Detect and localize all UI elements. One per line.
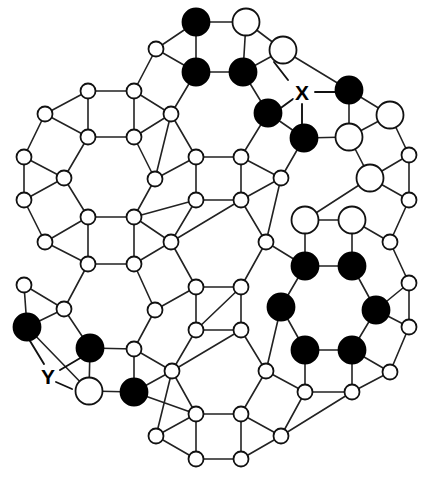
graph-node-white[interactable] (383, 365, 398, 380)
graph-node-white[interactable] (81, 257, 96, 272)
graph-node-black[interactable] (336, 77, 363, 104)
graph-node-black[interactable] (183, 59, 210, 86)
graph-node-white[interactable] (234, 323, 249, 338)
graph-node-white[interactable] (17, 150, 32, 165)
graph-node-white[interactable] (234, 150, 249, 165)
graph-node-white[interactable] (81, 130, 96, 145)
graph-node-white[interactable] (38, 235, 53, 250)
graph-node-white[interactable] (127, 210, 142, 225)
graph-node-white[interactable] (148, 303, 163, 318)
graph-node-black[interactable] (183, 9, 210, 36)
graph-node-white[interactable] (149, 42, 164, 57)
graph-node-black[interactable] (121, 379, 148, 406)
graph-node-white[interactable] (357, 165, 384, 192)
graph-node-black[interactable] (291, 125, 318, 152)
graph-node-white[interactable] (402, 148, 417, 163)
graph-node-white[interactable] (76, 378, 103, 405)
graph-node-white[interactable] (189, 280, 204, 295)
graph-node-white[interactable] (233, 9, 260, 36)
graph-node-white[interactable] (38, 107, 53, 122)
graph-node-black[interactable] (339, 337, 366, 364)
graph-node-white[interactable] (270, 37, 297, 64)
graph-node-white[interactable] (274, 171, 289, 186)
graph-node-white[interactable] (298, 385, 313, 400)
graph-node-white[interactable] (17, 193, 32, 208)
graph-node-white[interactable] (189, 407, 204, 422)
graph-node-white[interactable] (345, 385, 360, 400)
graph-node-white[interactable] (292, 207, 319, 234)
diagram-canvas: XY (0, 0, 432, 482)
graph-node-white[interactable] (127, 130, 142, 145)
graph-node-black[interactable] (14, 314, 41, 341)
graph-node-white[interactable] (402, 276, 417, 291)
graph-node-white[interactable] (234, 407, 249, 422)
graph-node-black[interactable] (230, 59, 257, 86)
graph-edge (172, 330, 241, 371)
graph-node-black[interactable] (363, 297, 390, 324)
graph-node-white[interactable] (377, 102, 404, 129)
graph-node-white[interactable] (259, 235, 274, 250)
graph-node-white[interactable] (189, 452, 204, 467)
graph-node-white[interactable] (383, 235, 398, 250)
graph-node-black[interactable] (268, 294, 295, 321)
graph-node-white[interactable] (17, 278, 32, 293)
annotation-label-x: X (295, 81, 309, 104)
graph-node-white[interactable] (234, 280, 249, 295)
label-leader-line-x (274, 62, 288, 80)
graph-node-white[interactable] (336, 124, 363, 151)
graph-node-black[interactable] (292, 337, 319, 364)
graph-svg: XY (0, 0, 432, 482)
graph-node-white[interactable] (165, 364, 180, 379)
graph-edge (155, 114, 171, 179)
graph-node-white[interactable] (149, 429, 164, 444)
graph-node-white[interactable] (164, 107, 179, 122)
graph-node-white[interactable] (57, 171, 72, 186)
graph-node-white[interactable] (259, 364, 274, 379)
graph-node-white[interactable] (148, 172, 163, 187)
annotation-label-y: Y (41, 365, 55, 388)
graph-node-white[interactable] (81, 84, 96, 99)
graph-node-white[interactable] (57, 302, 72, 317)
graph-node-white[interactable] (402, 320, 417, 335)
graph-node-black[interactable] (292, 253, 319, 280)
graph-node-black[interactable] (77, 335, 104, 362)
graph-node-black[interactable] (255, 100, 282, 127)
graph-node-white[interactable] (127, 84, 142, 99)
graph-node-white[interactable] (234, 193, 249, 208)
graph-node-white[interactable] (234, 452, 249, 467)
label-leader-line-y (56, 382, 72, 389)
graph-node-white[interactable] (402, 193, 417, 208)
graph-node-white[interactable] (274, 429, 289, 444)
graph-node-white[interactable] (127, 257, 142, 272)
graph-node-white[interactable] (127, 342, 142, 357)
graph-edge (171, 200, 241, 242)
nodes-layer (14, 9, 417, 467)
graph-node-white[interactable] (339, 207, 366, 234)
graph-node-white[interactable] (81, 210, 96, 225)
graph-edge (196, 287, 241, 330)
graph-node-black[interactable] (339, 253, 366, 280)
graph-edge (266, 178, 281, 242)
graph-node-white[interactable] (189, 193, 204, 208)
graph-edge (156, 371, 172, 436)
graph-node-white[interactable] (189, 323, 204, 338)
graph-node-white[interactable] (164, 235, 179, 250)
graph-edge (281, 392, 352, 436)
graph-node-white[interactable] (189, 150, 204, 165)
